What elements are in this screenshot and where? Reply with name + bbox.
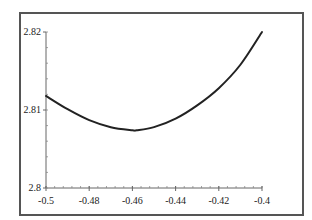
x-tick-label: -0.5 [38, 195, 54, 206]
data-series [46, 32, 262, 131]
y-tick-label: 2.82 [24, 26, 42, 37]
y-tick-label: 2.81 [24, 104, 42, 115]
axis-ticks [43, 32, 262, 191]
line-chart: -0.5-0.48-0.46-0.44-0.42-0.42.82.812.82 [0, 0, 312, 220]
x-tick-label: -0.44 [165, 195, 186, 206]
axes [46, 32, 262, 188]
tick-labels: -0.5-0.48-0.46-0.44-0.42-0.42.82.812.82 [24, 26, 270, 206]
x-tick-label: -0.48 [79, 195, 100, 206]
series-line [46, 32, 262, 131]
y-tick-label: 2.8 [29, 182, 42, 193]
x-tick-label: -0.4 [254, 195, 270, 206]
x-tick-label: -0.42 [208, 195, 229, 206]
x-tick-label: -0.46 [122, 195, 143, 206]
